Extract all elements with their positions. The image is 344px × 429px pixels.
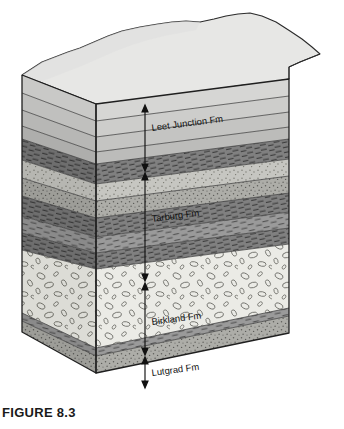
- geologic-block-diagram-figure: Leet Junction Fm Tarburg Fm Birkland Fm …: [0, 0, 344, 429]
- arrow-down-icon: [142, 381, 148, 388]
- figure-caption: FIGURE 8.3: [2, 405, 76, 420]
- left-face-strata: [22, 75, 96, 373]
- measure-lutgrad: [142, 357, 148, 388]
- block-diagram-svg: Leet Junction Fm Tarburg Fm Birkland Fm …: [0, 0, 344, 400]
- formation-label-lutgrad: Lutgrad Fm: [151, 361, 200, 378]
